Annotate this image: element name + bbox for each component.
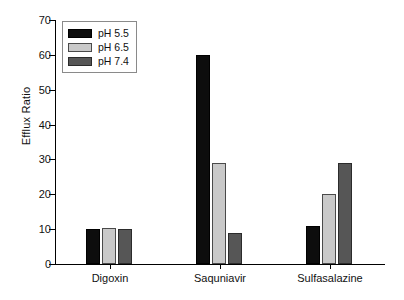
x-tick-mark [220,264,221,269]
y-tick-label: 10 [39,223,51,235]
x-tick-mark [110,264,111,269]
y-axis-label: Efflux Ratio [20,56,32,176]
chart-legend: pH 5.5pH 6.5pH 7.4 [62,21,137,73]
legend-label: pH 7.4 [98,55,129,67]
bar [306,226,320,264]
legend-label: pH 6.5 [98,41,129,53]
bar-set [196,55,242,264]
bar [212,163,226,264]
legend-item: pH 5.5 [68,26,129,40]
y-tick-label: 30 [39,153,51,165]
legend-swatch [68,29,92,38]
legend-swatch [68,57,92,66]
y-tick-label: 40 [39,119,51,131]
bar [322,194,336,264]
legend-item: pH 6.5 [68,40,129,54]
bar [102,228,116,264]
legend-swatch [68,43,92,52]
bar [228,233,242,264]
x-tick-mark [330,264,331,269]
y-tick-label: 0 [45,258,51,270]
bar-set [306,163,352,264]
y-tick-label: 20 [39,188,51,200]
legend-item: pH 7.4 [68,54,129,68]
y-axis-line [55,20,56,265]
y-tick-label: 50 [39,84,51,96]
y-tick-label: 60 [39,49,51,61]
legend-label: pH 5.5 [98,27,129,39]
chart-figure: Efflux Ratio 010203040506070 DigoxinSaqu… [0,0,404,300]
bar [338,163,352,264]
x-tick-label: Digoxin [92,272,129,284]
bar-set [86,228,132,264]
bar [86,229,100,264]
bar [118,229,132,264]
x-tick-label: Saquniavir [194,272,246,284]
y-tick-label: 70 [39,14,51,26]
x-tick-label: Sulfasalazine [297,272,362,284]
bar [196,55,210,264]
